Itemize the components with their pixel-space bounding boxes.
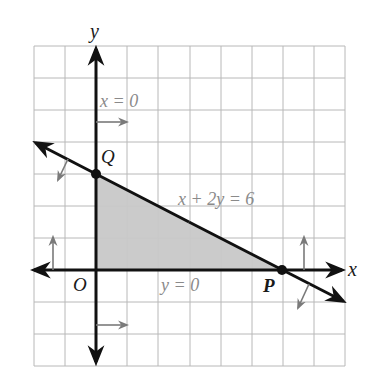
point-q: [91, 169, 101, 179]
point-p-label: P: [262, 275, 275, 296]
graph-canvas: y x O Q P x = 0 y = 0 x + 2y = 6: [0, 0, 380, 388]
x-eq-0-label: x = 0: [99, 91, 138, 111]
x-axis-label: x: [347, 258, 357, 280]
origin-label: O: [73, 274, 87, 295]
y-axis-label: y: [88, 20, 99, 43]
point-p: [277, 265, 287, 275]
y-eq-0-label: y = 0: [159, 275, 199, 295]
shade-arrow-line-right-icon: [298, 284, 309, 308]
shade-arrow-line-left-icon: [58, 159, 68, 180]
point-q-label: Q: [101, 146, 115, 167]
line-equation-label: x + 2y = 6: [177, 189, 254, 209]
